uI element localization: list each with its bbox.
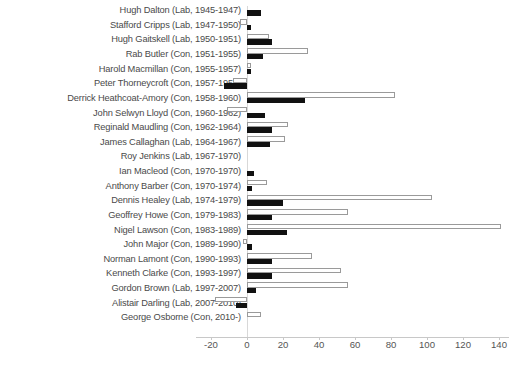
x-axis-tick-label: 60	[350, 339, 361, 351]
x-axis-tick-label: 80	[386, 339, 397, 351]
bar-open	[247, 63, 251, 68]
bar-filled	[247, 127, 272, 132]
bar-open	[247, 268, 341, 273]
x-axis-tick-label: 100	[419, 339, 435, 351]
bar-open	[247, 209, 348, 214]
bar-filled	[247, 244, 252, 249]
bar-filled	[247, 215, 272, 220]
bar-filled	[247, 113, 265, 118]
bar-open	[233, 78, 247, 83]
bar-filled	[247, 200, 283, 205]
bar-filled	[247, 54, 263, 59]
plot-area	[0, 0, 525, 338]
bar-open	[247, 253, 312, 258]
bar-filled	[247, 25, 251, 30]
bar-open	[247, 122, 288, 127]
bar-filled	[247, 288, 256, 293]
bar-open	[240, 19, 247, 24]
bar-open	[247, 312, 261, 317]
bar-open	[247, 92, 395, 97]
bar-filled	[247, 142, 270, 147]
x-axis-tick-label: 120	[455, 339, 471, 351]
bar-open	[247, 34, 269, 39]
bar-open	[243, 239, 247, 244]
bar-filled	[247, 186, 252, 191]
chart-container: Hugh Dalton (Lab, 1945-1947)Stafford Cri…	[0, 0, 525, 365]
bar-open	[247, 136, 285, 141]
bar-filled	[247, 171, 254, 176]
bar-filled	[247, 230, 287, 235]
bar-open	[247, 48, 308, 53]
bar-filled	[247, 69, 251, 74]
bar-open	[247, 180, 267, 185]
x-axis-tick-label: 40	[314, 339, 325, 351]
bar-filled	[247, 98, 305, 103]
bar-open	[247, 282, 348, 287]
bar-open	[215, 297, 247, 302]
bar-filled	[247, 273, 272, 278]
bar-open	[227, 107, 247, 112]
bar-filled	[247, 39, 272, 44]
bar-open	[247, 224, 501, 229]
x-axis-tick-label: 140	[491, 339, 507, 351]
bar-filled	[247, 259, 272, 264]
x-axis-tick-label: -20	[204, 339, 218, 351]
bar-open	[247, 195, 432, 200]
bar-filled	[224, 83, 247, 88]
x-axis-tick-label: 0	[244, 339, 249, 351]
x-axis-tick-label: 20	[278, 339, 289, 351]
bar-filled	[247, 10, 261, 15]
bar-filled	[236, 303, 247, 308]
